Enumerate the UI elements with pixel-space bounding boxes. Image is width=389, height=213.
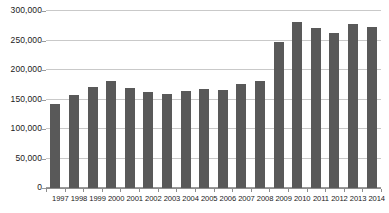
bar-2000 <box>106 81 116 188</box>
bar-2011 <box>311 28 321 188</box>
x-axis-ticks <box>46 189 381 193</box>
x-axis-tick <box>65 189 66 192</box>
bar-2009 <box>274 42 284 188</box>
x-axis-tick <box>158 189 159 192</box>
bar-2007 <box>236 84 246 188</box>
x-axis-tick <box>176 189 177 192</box>
y-axis-label: 100,000 <box>0 124 42 133</box>
bar-1999 <box>88 87 98 188</box>
bar-1998 <box>69 95 79 188</box>
x-axis-tick <box>325 189 326 192</box>
bar-2014 <box>367 27 377 188</box>
x-axis-tick <box>251 189 252 192</box>
x-axis-tick <box>307 189 308 192</box>
bar-2001 <box>125 88 135 188</box>
x-axis-label-2014: 2014 <box>366 194 388 204</box>
bar-2004 <box>181 91 191 188</box>
x-axis-tick <box>214 189 215 192</box>
x-axis-tick <box>139 189 140 192</box>
bar-2013 <box>348 24 358 188</box>
x-axis-tick <box>381 189 382 192</box>
plot-area <box>46 11 381 188</box>
x-axis-tick <box>120 189 121 192</box>
bars-group <box>46 11 381 188</box>
x-axis-tick <box>195 189 196 192</box>
y-axis-label: 200,000 <box>0 65 42 74</box>
y-axis-label: 150,000 <box>0 95 42 104</box>
y-axis-label: 50,000 <box>0 154 42 163</box>
x-axis-tick <box>102 189 103 192</box>
bar-chart: 050,000100,000150,000200,000250,000300,0… <box>0 0 389 213</box>
x-axis-labels: 1997199819992000200120022003200420052006… <box>46 194 381 208</box>
x-axis-tick <box>269 189 270 192</box>
x-axis-tick <box>362 189 363 192</box>
bar-2010 <box>292 22 302 188</box>
bar-2003 <box>162 94 172 188</box>
y-axis-label: 0 <box>0 183 42 192</box>
x-axis-tick <box>288 189 289 192</box>
bar-2006 <box>218 90 228 188</box>
bar-2012 <box>329 33 339 188</box>
bar-2008 <box>255 81 265 188</box>
bar-1997 <box>50 104 60 188</box>
y-axis-label: 300,000 <box>0 6 42 15</box>
bar-2002 <box>143 92 153 188</box>
x-axis-tick <box>344 189 345 192</box>
y-axis-label: 250,000 <box>0 36 42 45</box>
x-axis-tick <box>83 189 84 192</box>
y-axis: 050,000100,000150,000200,000250,000300,0… <box>0 0 42 213</box>
x-axis-tick <box>46 189 47 192</box>
bar-2005 <box>199 89 209 188</box>
x-axis-tick <box>232 189 233 192</box>
